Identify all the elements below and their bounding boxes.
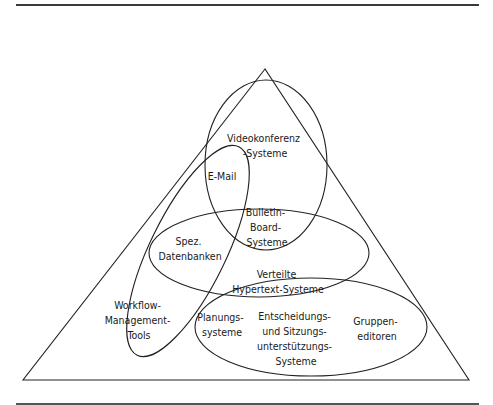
label-hypertext: Verteilte Hypertext-Systeme: [232, 268, 324, 295]
label-planung: Planungs- systeme: [197, 311, 246, 338]
label-workflow: Workflow- Management- Tools: [105, 299, 174, 341]
label-entscheidung: Entscheidungs- und Sitzungs- unterstützu…: [257, 310, 335, 367]
bottom-rule: [16, 403, 479, 405]
label-gruppeneditoren: Gruppen- editoren: [353, 315, 400, 342]
label-videokonferenz: Videokonferenz -Systeme: [227, 132, 303, 159]
outer-triangle: [23, 69, 469, 380]
label-email: E-Mail: [208, 170, 237, 182]
label-datenbanken: Spez. Datenbanken: [158, 235, 221, 262]
venn-triangle-diagram: Videokonferenz -Systeme E-Mail Bulletin-…: [0, 0, 493, 405]
label-bulletin: Bulletin- Board- Systeme: [246, 206, 288, 248]
